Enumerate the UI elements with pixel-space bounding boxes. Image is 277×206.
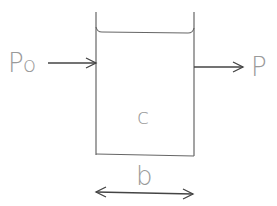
container-bottom <box>96 154 194 156</box>
inlet-arrow <box>48 58 96 68</box>
width-label: b <box>136 161 153 191</box>
outlet-label: P <box>251 52 267 82</box>
diagram-canvas: Po P c b <box>0 0 277 206</box>
diagram-svg: Po P c b <box>0 0 277 206</box>
container <box>96 12 194 156</box>
inlet-label: Po <box>8 48 36 78</box>
outlet-arrow <box>194 62 243 72</box>
content-label: c <box>137 104 149 129</box>
liquid-surface <box>96 27 194 33</box>
